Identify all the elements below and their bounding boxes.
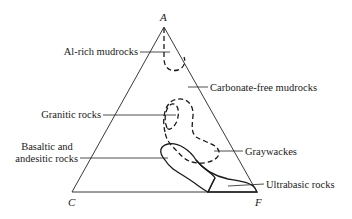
vertex-f-label: F [254,196,262,208]
field-basaltic-andesitic-rocks [161,144,215,192]
label-granitic-rocks: Granitic rocks [41,109,101,120]
field-al-rich-mudrocks [164,28,185,71]
label-basaltic-line1: Basaltic and [21,141,73,152]
label-graywackes: Graywackes [245,146,297,157]
vertex-c-label: C [68,196,76,208]
label-basaltic-line2: andesitic rocks [15,153,78,164]
acf-ternary-diagram: A C F Al-rich mudrocks Carbonate-free mu… [0,0,352,219]
label-al-rich-mudrocks: Al-rich mudrocks [64,46,138,57]
vertex-a-label: A [159,11,167,23]
label-carbonate-free-mudrocks: Carbonate-free mudrocks [210,82,317,93]
field-granitic-rocks [165,104,178,129]
leader-ultrabasic [228,184,264,186]
label-ultrabasic-rocks: Ultrabasic rocks [266,179,335,190]
